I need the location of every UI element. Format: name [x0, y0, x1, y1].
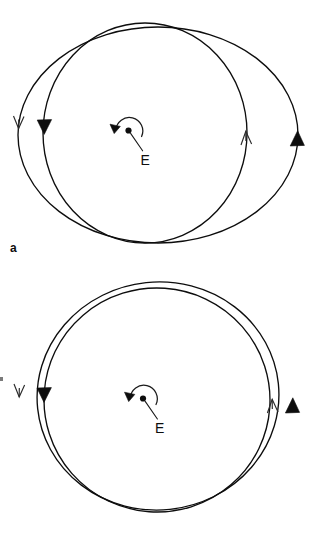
panel-b-earth-label: E — [155, 420, 164, 436]
panel-a-outer-open-arrow-left-icon — [14, 116, 25, 129]
earth-rotation-arrowhead-icon — [125, 392, 135, 401]
earth-label-leader-line — [131, 133, 143, 150]
orbital-diagram-figure: E a — [0, 0, 318, 533]
panel-b-outer-solid-arrow-right-icon — [285, 398, 299, 413]
panel-b-canvas: E — [0, 266, 318, 533]
panel-a-earth-label: E — [141, 152, 150, 168]
panel-b-inner-solid-arrow-left-icon — [37, 388, 51, 403]
panel-a-outer-solid-arrow-right-icon — [290, 131, 304, 146]
panel-a-canvas: E — [0, 0, 318, 266]
edge-tick-mark — [0, 377, 3, 381]
panel-a-inner-orbit — [43, 23, 247, 243]
panel-b: E b — [0, 266, 318, 533]
earth-dot — [140, 395, 146, 401]
panel-a: E a — [0, 0, 318, 266]
panel-a-letter: a — [10, 242, 17, 254]
panel-b-outer-open-arrow-left-icon — [14, 384, 25, 397]
panel-a-outer-orbit — [18, 27, 298, 243]
panel-b-outer-orbit — [26, 270, 291, 522]
panel-a-inner-solid-arrow-left-icon — [37, 120, 51, 135]
earth-rotation-arrowhead-icon — [110, 124, 120, 133]
earth-dot — [125, 127, 131, 133]
